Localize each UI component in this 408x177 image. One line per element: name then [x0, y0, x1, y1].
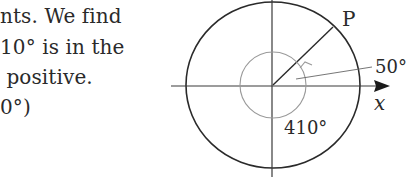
unit-circle-figure: P 50° x 410°: [0, 0, 408, 177]
point-label: P: [342, 7, 355, 31]
reference-angle-label: 50°: [375, 56, 407, 77]
angle-arrow-icon: [300, 62, 312, 68]
terminal-ray: [273, 27, 333, 85]
total-angle-label: 410°: [284, 117, 327, 138]
x-axis-label: x: [374, 91, 385, 115]
reference-angle-leader: [296, 67, 372, 79]
